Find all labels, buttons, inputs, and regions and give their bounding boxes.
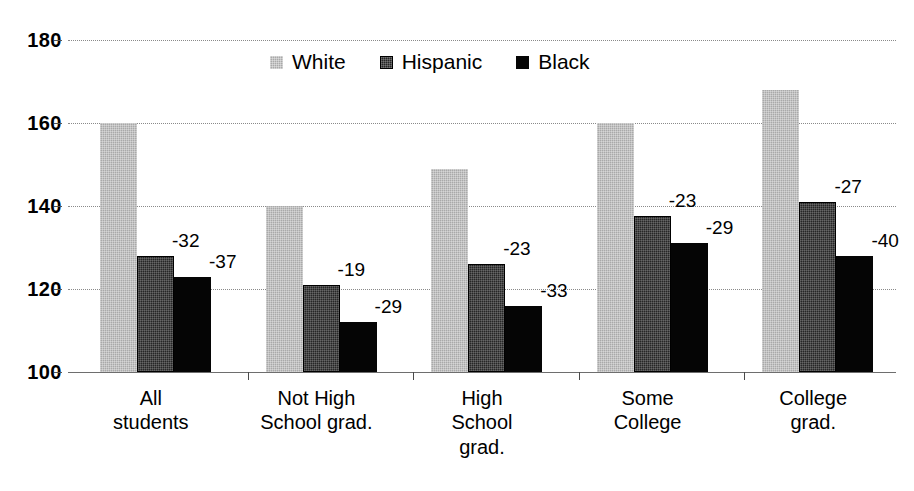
bar-value-label: -33 bbox=[540, 281, 567, 300]
bar-hispanic bbox=[303, 285, 340, 372]
bar-value-label: -29 bbox=[375, 297, 402, 316]
legend-label: White bbox=[292, 50, 346, 74]
bar-value-label: -37 bbox=[209, 252, 236, 271]
legend-item-black[interactable]: Black bbox=[516, 50, 589, 74]
bar-hispanic bbox=[799, 202, 836, 372]
bar-value-label: -40 bbox=[871, 231, 898, 250]
bar-black bbox=[836, 256, 873, 372]
plot-area: -32-37-19-29-23-33-23-29-27-40 bbox=[68, 40, 896, 372]
bar-group: -23-29 bbox=[565, 40, 731, 372]
bar-value-label: -27 bbox=[834, 177, 861, 196]
bar-value-label: -23 bbox=[669, 191, 696, 210]
bar-black bbox=[505, 306, 542, 372]
legend-label: Hispanic bbox=[402, 50, 483, 74]
bar-black bbox=[671, 243, 708, 372]
bar-hispanic bbox=[634, 216, 671, 372]
y-axis-tick-160 bbox=[54, 123, 62, 124]
gridline-100 bbox=[68, 372, 896, 373]
bar-group: -32-37 bbox=[68, 40, 234, 372]
bar-black bbox=[340, 322, 377, 372]
x-axis-label: SomeCollege bbox=[565, 386, 731, 435]
x-axis-label: HighSchoolgrad. bbox=[399, 386, 565, 459]
legend-item-hispanic[interactable]: Hispanic bbox=[380, 50, 483, 74]
y-axis-tick-100 bbox=[54, 372, 62, 373]
bar-white bbox=[266, 206, 303, 372]
bar-value-label: -23 bbox=[503, 239, 530, 258]
y-axis-tick-120 bbox=[54, 289, 62, 290]
bar-hispanic bbox=[468, 264, 505, 372]
bar-value-label: -32 bbox=[172, 231, 199, 250]
x-axis-tick bbox=[413, 372, 414, 380]
x-axis-category-labels: AllstudentsNot HighSchool grad.HighSchoo… bbox=[68, 386, 896, 486]
bar-white bbox=[100, 123, 137, 372]
bar-white bbox=[762, 90, 799, 372]
legend-item-white[interactable]: White bbox=[270, 50, 346, 74]
y-axis: 100120140160180 bbox=[0, 40, 62, 372]
x-axis-label: Not HighSchool grad. bbox=[234, 386, 400, 435]
x-axis-label: Collegegrad. bbox=[730, 386, 896, 435]
y-axis-tick-140 bbox=[54, 206, 62, 207]
legend-swatch-icon bbox=[270, 56, 283, 69]
legend-swatch-icon bbox=[516, 56, 529, 69]
bar-group: -19-29 bbox=[234, 40, 400, 372]
x-axis-label: Allstudents bbox=[68, 386, 234, 435]
x-axis-tick bbox=[579, 372, 580, 380]
legend-label: Black bbox=[538, 50, 589, 74]
chart-legend: WhiteHispanicBlack bbox=[270, 50, 590, 74]
bar-group: -23-33 bbox=[399, 40, 565, 372]
bar-value-label: -19 bbox=[338, 260, 365, 279]
bar-value-label: -29 bbox=[706, 218, 733, 237]
bar-white bbox=[431, 169, 468, 372]
bar-white bbox=[597, 123, 634, 372]
bar-group: -27-40 bbox=[730, 40, 896, 372]
bar-hispanic bbox=[137, 256, 174, 372]
legend-swatch-icon bbox=[380, 56, 393, 69]
y-axis-tick-180 bbox=[54, 40, 62, 41]
x-axis-tick bbox=[248, 372, 249, 380]
bar-black bbox=[174, 277, 211, 372]
bar-chart: 100120140160180 -32-37-19-29-23-33-23-29… bbox=[0, 0, 914, 491]
x-axis-tick bbox=[744, 372, 745, 380]
